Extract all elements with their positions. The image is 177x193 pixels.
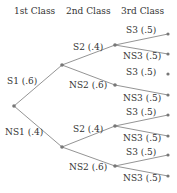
branch-s3-4: S3 (.5) [126,147,156,157]
branch-s3-1: S3 (.5) [126,25,156,35]
branch-s1: S1 (.6) [7,76,37,86]
branch-ns3-3: NS3 (.5) [123,133,161,143]
branch-s1-s2: S2 (.4) [73,42,103,52]
branch-s3-3: S3 (.5) [126,107,156,117]
branch-ns3-4: NS3 (.5) [123,173,161,183]
branch-ns1-ns2: NS2 (.6) [69,162,107,172]
root-node [12,104,16,108]
branch-ns3-1: NS3 (.5) [123,51,161,61]
branch-s1-ns2: NS2 (.6) [69,80,107,90]
branch-ns1-s2: S2 (.4) [73,124,103,134]
branch-ns3-2: NS3 (.5) [123,93,161,103]
branch-s3-2: S3 (.5) [126,67,156,77]
branch-ns1: NS1 (.4) [5,127,43,137]
